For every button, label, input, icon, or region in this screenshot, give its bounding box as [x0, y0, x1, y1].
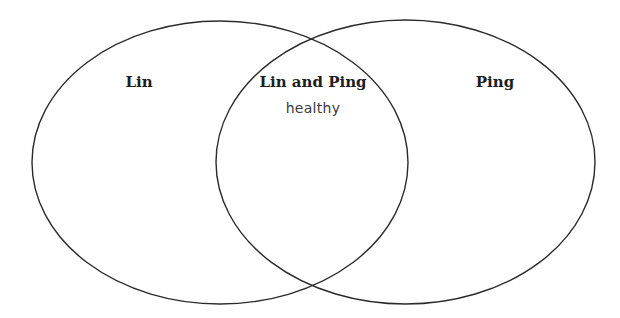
venn-diagram: Lin Lin and Ping Ping healthy: [0, 0, 620, 318]
set-circle-ping: [216, 20, 595, 304]
intersection-label: Lin and Ping: [259, 73, 367, 91]
set-label-lin: Lin: [125, 73, 152, 91]
set-circle-lin: [32, 21, 408, 304]
intersection-item: healthy: [286, 100, 341, 116]
set-label-ping: Ping: [476, 73, 515, 91]
